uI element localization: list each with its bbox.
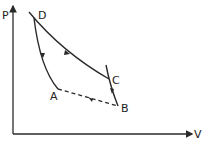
axis-label-p: P — [2, 9, 9, 22]
arrow-b-a-icon — [88, 97, 93, 102]
cycle-curves — [29, 12, 118, 106]
segment-a-b-dashed — [58, 89, 118, 106]
curve-d-c — [29, 12, 109, 79]
point-label-c: C — [112, 74, 120, 87]
pv-diagram: P V D C B A — [0, 0, 204, 142]
point-label-b: B — [121, 102, 129, 115]
point-label-a: A — [50, 90, 58, 103]
point-label-d: D — [38, 9, 46, 22]
axis-label-v: V — [194, 128, 202, 141]
curve-d-a — [34, 18, 58, 89]
